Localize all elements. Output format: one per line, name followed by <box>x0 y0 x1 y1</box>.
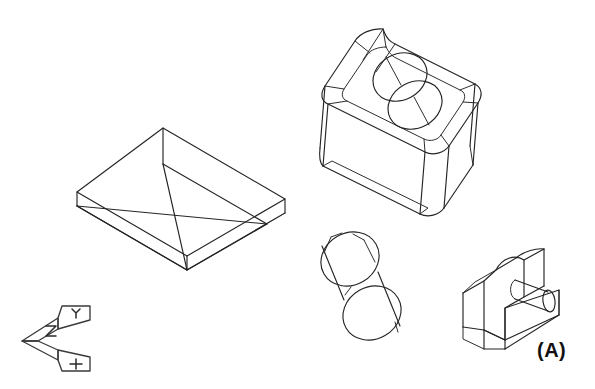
technical-drawing-figure: (A) <box>0 0 595 389</box>
cylinder <box>311 221 411 350</box>
figure-label: (A) <box>537 339 566 362</box>
rounded-block-with-counterbore <box>320 29 482 216</box>
bracket-with-boss <box>463 249 559 349</box>
isometric-drawing-canvas <box>0 0 595 389</box>
open-box-tray <box>77 128 285 270</box>
ucs-axis-icon <box>22 306 90 371</box>
